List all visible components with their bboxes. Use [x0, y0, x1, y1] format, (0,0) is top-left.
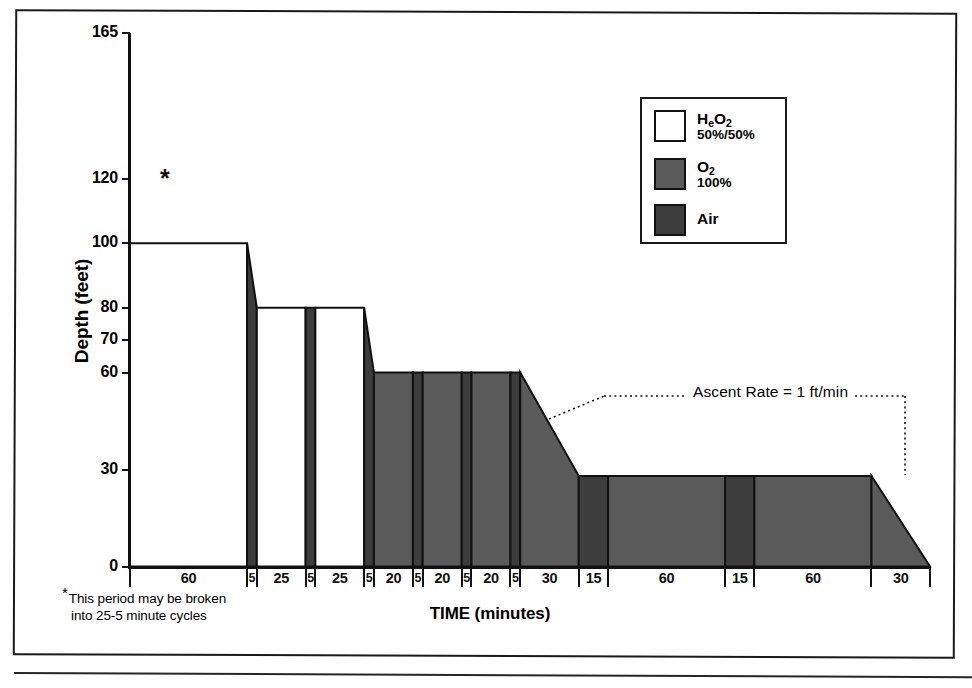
- y-axis-line: [128, 33, 131, 569]
- y-tick-100: [122, 242, 130, 244]
- x-seg-label-6: 20: [374, 569, 413, 587]
- x-seg-label-8: 20: [423, 569, 462, 587]
- profile-segment-6-o2: [374, 373, 413, 567]
- legend-swatch-air: [654, 204, 686, 236]
- ascent-leader-left-diagonal: [549, 396, 604, 419]
- profile-segment-17-o2: [871, 476, 930, 567]
- profile-segment-0-heo2: [130, 243, 247, 566]
- y-tick-label-wrap-30: 30: [0, 461, 118, 477]
- y-tick-label-wrap-70: 70: [0, 331, 118, 347]
- y-tick-label-wrap-165: 165: [0, 24, 118, 40]
- x-seg-label-2: 25: [257, 569, 306, 587]
- legend-text-o2: O2 100%: [697, 158, 732, 190]
- profile-segment-14-o2: [608, 476, 725, 567]
- x-seg-label-16: 60: [754, 569, 871, 587]
- profile-segment-4-heo2: [315, 308, 364, 567]
- profile-segment-15-air: [725, 476, 754, 567]
- legend-item-air: Air: [654, 204, 719, 236]
- legend-text-heo2: HeO2 50%/50%: [697, 110, 755, 142]
- legend-sublabel-heo2: 50%/50%: [697, 127, 755, 142]
- legend-label-air: Air: [697, 210, 719, 227]
- profile-segment-1-air: [247, 243, 257, 566]
- profile-segment-3-air: [306, 308, 316, 567]
- x-seg-label-12: 30: [520, 569, 579, 587]
- y-tick-165: [122, 32, 130, 34]
- profile-segment-5-air: [364, 308, 374, 567]
- y-tick-30: [122, 469, 130, 471]
- plateau-footnote-marker: *: [160, 166, 170, 191]
- gas-legend: HeO2 50%/50% O2 100% Air: [640, 97, 787, 244]
- profile-segment-11-air: [510, 373, 520, 567]
- y-tick-60: [122, 372, 130, 374]
- legend-swatch-o2: [654, 158, 686, 190]
- footnote-marker: *: [62, 584, 68, 601]
- y-tick-label-30: 30: [72, 461, 118, 477]
- profile-segment-8-o2: [423, 373, 462, 567]
- x-seg-label-15: 15: [725, 569, 754, 587]
- legend-sublabel-o2: 100%: [697, 175, 732, 190]
- y-tick-label-wrap-120: 120: [0, 170, 118, 186]
- x-seg-label-17: 30: [871, 569, 930, 587]
- profile-segment-16-o2: [754, 476, 871, 567]
- footnote-line-2: into 25-5 minute cycles: [71, 607, 322, 624]
- legend-label-o2: O2: [697, 158, 732, 175]
- footnote: *This period may be broken into 25-5 min…: [62, 590, 322, 625]
- y-tick-80: [122, 307, 130, 309]
- legend-text-air: Air: [697, 204, 719, 227]
- x-seg-label-4: 25: [315, 569, 364, 587]
- x-seg-label-10: 20: [471, 569, 510, 587]
- y-tick-label-wrap-100: 100: [0, 234, 118, 250]
- plot-area: 030607080100120165 605255255205205205301…: [0, 0, 972, 688]
- profile-segment-7-air: [413, 373, 423, 567]
- x-seg-label-1: 5: [247, 569, 257, 587]
- legend-label-heo2: HeO2: [697, 110, 755, 127]
- profile-segment-13-air: [579, 476, 608, 567]
- x-seg-label-14: 60: [608, 569, 725, 587]
- footnote-line-1: This period may be broken: [69, 591, 226, 606]
- y-tick-label-wrap-60: 60: [0, 364, 118, 380]
- profile-segment-9-air: [462, 373, 472, 567]
- x-seg-label-9: 5: [462, 569, 472, 587]
- y-tick-label-165: 165: [72, 24, 118, 40]
- legend-item-heo2: HeO2 50%/50%: [654, 110, 755, 142]
- x-seg-label-13: 15: [579, 569, 608, 587]
- y-tick-label-120: 120: [72, 170, 118, 186]
- x-seg-label-11: 5: [510, 569, 520, 587]
- x-seg-label-3: 5: [306, 569, 316, 587]
- legend-swatch-heo2: [654, 110, 686, 142]
- x-axis-title: TIME (minutes): [330, 604, 650, 624]
- y-tick-70: [122, 339, 130, 341]
- x-seg-label-7: 5: [413, 569, 423, 587]
- legend-item-o2: O2 100%: [654, 158, 732, 190]
- x-seg-label-0: 60: [130, 569, 247, 587]
- y-tick-label-wrap-0: 0: [0, 558, 118, 574]
- profile-segment-10-o2: [471, 373, 510, 567]
- y-axis-title: Depth (feet): [71, 221, 93, 401]
- profile-segment-2-heo2: [257, 308, 306, 567]
- y-tick-label-wrap-80: 80: [0, 299, 118, 315]
- y-tick-label-0: 0: [72, 558, 118, 574]
- x-seg-label-5: 5: [364, 569, 374, 587]
- profile-segment-12-o2: [520, 373, 579, 567]
- y-tick-120: [122, 178, 130, 180]
- ascent-rate-annotation: Ascent Rate = 1 ft/min: [693, 383, 848, 401]
- dive-profile-figure: 030607080100120165 605255255205205205301…: [0, 0, 972, 688]
